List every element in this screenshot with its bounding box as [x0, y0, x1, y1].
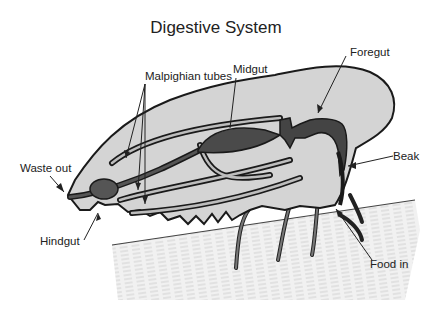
- label-midgut: Midgut: [233, 63, 268, 75]
- label-beak: Beak: [393, 150, 419, 162]
- hindgut-organ: [90, 179, 118, 199]
- label-hindgut: Hindgut: [40, 235, 80, 247]
- label-waste-out: Waste out: [20, 162, 71, 174]
- plant-stem: [112, 200, 420, 300]
- label-malpighian-tubes: Malpighian tubes: [145, 70, 232, 82]
- label-food-in: Food in: [370, 258, 408, 270]
- label-foregut: Foregut: [350, 46, 390, 58]
